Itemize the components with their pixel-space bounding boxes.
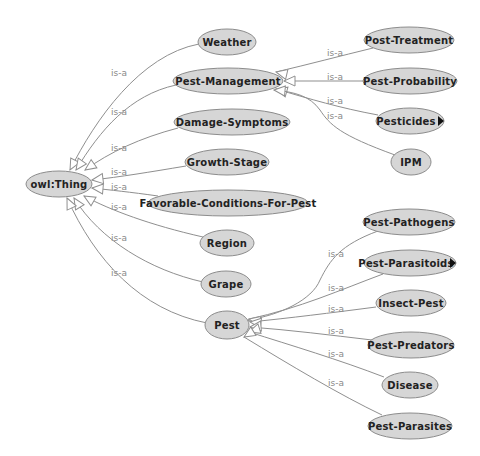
edge-label: is-a xyxy=(328,283,344,293)
edge-line xyxy=(244,337,382,415)
edge-post-treatment-to-pest-management: is-a xyxy=(275,48,373,79)
node-label: Pest-Parasitoids xyxy=(358,258,453,269)
ontology-graph: is-ais-ais-ais-ais-ais-ais-ais-ais-ais-a… xyxy=(0,0,480,456)
node-label: Post-Treatment xyxy=(365,35,453,46)
edge-layer: is-ais-ais-ais-ais-ais-ais-ais-ais-ais-a… xyxy=(62,44,395,415)
node-weather[interactable]: Weather xyxy=(198,29,256,55)
node-label: Pest-Parasites xyxy=(368,421,452,432)
node-pest-parasitoids[interactable]: Pest-Parasitoids xyxy=(358,250,456,276)
edge-line xyxy=(249,274,383,319)
edge-label: is-a xyxy=(111,167,127,177)
node-grape[interactable]: Grape xyxy=(201,271,251,297)
arrowhead-icon xyxy=(92,183,104,194)
edge-pest-parasitoids-to-pest: is-a xyxy=(248,274,383,326)
node-label: Pest xyxy=(214,320,240,331)
node-label: Pest-Probability xyxy=(363,76,457,87)
node-label: Pest-Pathogens xyxy=(363,217,454,228)
node-label: Grape xyxy=(209,279,244,290)
edge-label: is-a xyxy=(328,249,344,259)
node-owl-thing[interactable]: owl:Thing xyxy=(26,171,92,197)
node-label: Weather xyxy=(202,37,251,48)
edge-label: is-a xyxy=(111,268,127,278)
node-favorable-conditions-for-pest[interactable]: Favorable-Conditions-For-Pest xyxy=(140,190,317,216)
node-label: Damage-Symptoms xyxy=(176,117,289,128)
edge-label: is-a xyxy=(111,107,127,117)
edge-label: is-a xyxy=(327,111,343,121)
edge-label: is-a xyxy=(328,326,344,336)
edge-pest-predators-to-pest: is-a xyxy=(250,321,372,340)
node-label: Pesticides xyxy=(376,116,436,127)
node-pest-parasites[interactable]: Pest-Parasites xyxy=(368,413,452,439)
edge-line xyxy=(248,231,378,320)
edge-label: is-a xyxy=(328,304,344,314)
edge-pest-to-owl-thing: is-a xyxy=(62,196,207,323)
edge-disease-to-pest: is-a xyxy=(247,324,384,377)
edge-pest-parasites-to-pest: is-a xyxy=(241,327,382,415)
arrowhead-icon xyxy=(82,160,97,175)
edge-label: is-a xyxy=(327,72,343,82)
node-layer: owl:ThingWeatherPest-ManagementDamage-Sy… xyxy=(26,27,457,439)
node-pest-probability[interactable]: Pest-Probability xyxy=(363,68,457,94)
node-ipm[interactable]: IPM xyxy=(391,149,431,175)
node-label: IPM xyxy=(400,157,422,168)
node-label: Pest-Predators xyxy=(367,340,454,351)
edge-favorable-conditions-for-pest-to-owl-thing: is-a xyxy=(92,182,158,196)
node-label: owl:Thing xyxy=(31,179,88,190)
arrowhead-icon xyxy=(82,192,97,206)
edge-pest-pathogens-to-pest: is-a xyxy=(247,231,378,327)
node-label: Growth-Stage xyxy=(187,157,267,168)
node-label: Favorable-Conditions-For-Pest xyxy=(140,198,317,209)
edge-line xyxy=(70,44,199,170)
node-pest-predators[interactable]: Pest-Predators xyxy=(367,332,454,358)
edge-label: is-a xyxy=(111,68,127,78)
node-pest-management[interactable]: Pest-Management xyxy=(173,68,283,94)
edge-line xyxy=(276,48,373,72)
edge-label: is-a xyxy=(327,96,343,106)
edge-insect-pest-to-pest: is-a xyxy=(249,304,376,328)
edge-label: is-a xyxy=(111,233,127,243)
node-label: Insect-Pest xyxy=(378,298,443,309)
edge-label: is-a xyxy=(328,378,344,388)
node-growth-stage[interactable]: Growth-Stage xyxy=(185,149,269,175)
edge-label: is-a xyxy=(111,182,127,192)
edge-pest-management-to-owl-thing: is-a xyxy=(72,85,176,173)
node-post-treatment[interactable]: Post-Treatment xyxy=(364,27,454,53)
arrowhead-icon xyxy=(91,174,103,185)
node-label: Region xyxy=(207,238,247,249)
edge-line xyxy=(76,85,176,170)
node-insect-pest[interactable]: Insect-Pest xyxy=(376,290,446,316)
edge-pest-probability-to-pest-management: is-a xyxy=(284,72,363,86)
edge-label: is-a xyxy=(328,349,344,359)
node-label: Disease xyxy=(387,380,432,391)
node-pest[interactable]: Pest xyxy=(205,311,249,339)
edge-label: is-a xyxy=(111,202,127,212)
node-disease[interactable]: Disease xyxy=(382,372,438,398)
edge-line xyxy=(92,166,186,180)
edge-label: is-a xyxy=(327,48,343,58)
node-damage-symptoms[interactable]: Damage-Symptoms xyxy=(174,109,290,135)
node-label: Pest-Management xyxy=(175,76,281,87)
edge-label: is-a xyxy=(111,143,127,153)
edge-line xyxy=(85,128,178,170)
edge-damage-symptoms-to-owl-thing: is-a xyxy=(82,128,178,174)
node-region[interactable]: Region xyxy=(200,230,254,256)
node-pesticides[interactable]: Pesticides xyxy=(376,108,444,134)
node-pest-pathogens[interactable]: Pest-Pathogens xyxy=(363,209,455,235)
edge-growth-stage-to-owl-thing: is-a xyxy=(91,166,186,185)
edge-weather-to-owl-thing: is-a xyxy=(66,44,199,172)
